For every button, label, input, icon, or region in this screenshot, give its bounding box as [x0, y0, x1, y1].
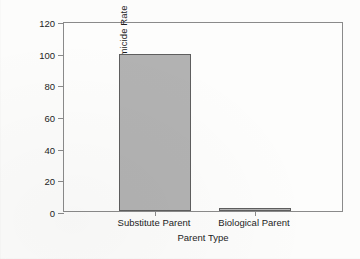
y-tick-label-120: 120: [39, 17, 55, 30]
y-tick-20: 20: [58, 181, 64, 182]
y-tick-100: 100: [58, 55, 64, 56]
x-tick-label-biological-parent: Biological Parent: [174, 216, 334, 229]
chart-figure: Relative Homicide Rate 120 100 80 60 40 …: [0, 0, 360, 259]
bar-biological-parent: [219, 208, 291, 211]
y-tick-label-100: 100: [39, 49, 55, 62]
y-tick-80: 80: [58, 86, 64, 87]
bar-substitute-parent: [119, 54, 191, 211]
y-tick-60: 60: [58, 118, 64, 119]
y-tick-label-80: 80: [44, 80, 55, 93]
y-tick-120: 120: [58, 23, 64, 24]
y-tick-label-0: 0: [50, 207, 55, 220]
y-tick-label-60: 60: [44, 112, 55, 125]
y-tick-0: 0: [58, 213, 64, 214]
plot-area: Relative Homicide Rate 120 100 80 60 40 …: [63, 22, 343, 212]
x-axis-title: Parent Type: [63, 231, 343, 244]
y-tick-label-20: 20: [44, 175, 55, 188]
y-tick-label-40: 40: [44, 144, 55, 157]
y-tick-40: 40: [58, 150, 64, 151]
